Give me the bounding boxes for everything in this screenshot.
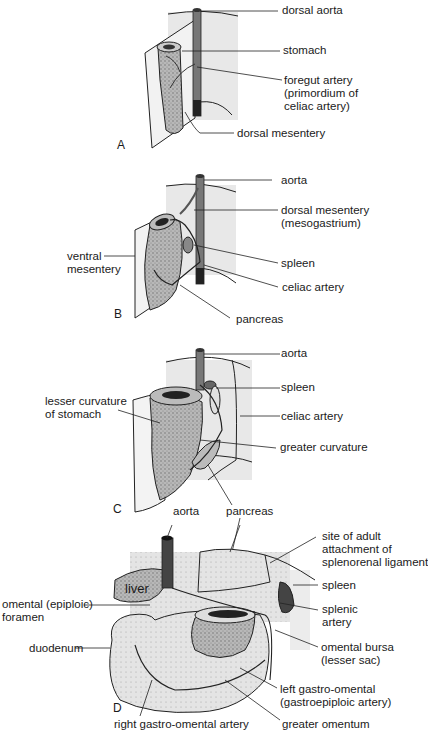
label-spleen-d: spleen xyxy=(322,579,356,592)
label-foregut-artery: foregut artery (primordium of celiac art… xyxy=(284,74,358,113)
label-stomach: stomach xyxy=(283,44,326,57)
label-lesser-curvature: lesser curvature of stomach xyxy=(45,395,127,421)
label-dorsal-mesentery-b: dorsal mesentery (mesogastrium) xyxy=(281,204,369,230)
label-duodenum: duodenum xyxy=(29,642,83,655)
panel-b-drawing xyxy=(104,174,278,318)
label-dorsal-mesentery-a: dorsal mesentery xyxy=(237,127,325,140)
label-ventral-mesentery: ventral mesentery xyxy=(67,250,121,276)
label-spleen-b: spleen xyxy=(281,257,315,270)
label-omental-foramen: omental (epiploic) foramen xyxy=(2,598,93,624)
label-right-gastro-omental: right gastro-omental artery xyxy=(114,718,249,731)
label-dorsal-aorta: dorsal aorta xyxy=(282,4,343,17)
label-celiac-artery-b: celiac artery xyxy=(282,281,344,294)
panel-d-letter: D xyxy=(113,701,122,715)
label-spleen-c: spleen xyxy=(281,381,315,394)
panel-c-drawing xyxy=(118,348,280,552)
label-omental-bursa: omental bursa (lesser sac) xyxy=(321,641,394,667)
label-greater-curvature: greater curvature xyxy=(280,441,368,454)
label-splenic-artery: splenic artery xyxy=(322,603,358,629)
label-left-gastro-omental: left gastro-omental (gastroepiploic arte… xyxy=(280,683,391,709)
label-aorta-c: aorta xyxy=(281,347,307,360)
panel-a-letter: A xyxy=(117,138,125,152)
label-aorta-d: aorta xyxy=(173,505,199,518)
panel-b-letter: B xyxy=(114,307,122,321)
label-greater-omentum: greater omentum xyxy=(282,718,370,731)
label-liver: liver xyxy=(125,582,149,595)
panel-c-letter: C xyxy=(113,502,122,516)
label-celiac-artery-c: celiac artery xyxy=(281,410,343,423)
label-aorta-b: aorta xyxy=(281,174,307,187)
label-site-of-adult-attachment: site of adult attachment of splenorenal … xyxy=(322,530,428,569)
label-pancreas-c: pancreas xyxy=(226,505,273,518)
label-pancreas-b: pancreas xyxy=(236,313,283,326)
